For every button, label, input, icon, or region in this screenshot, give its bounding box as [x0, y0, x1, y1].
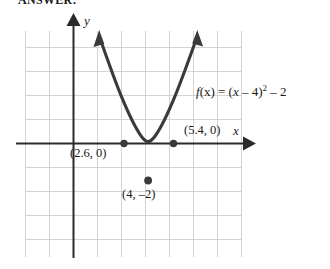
function-part-d: – 2: [267, 84, 287, 99]
answer-figure: ANSWER:: [0, 0, 330, 269]
point-vertex: [144, 177, 152, 185]
y-axis: [67, 13, 81, 258]
point-x-intercept-right: [170, 140, 177, 147]
x-intercept-left-label: (2.6, 0): [70, 147, 106, 160]
function-part-c: – 4): [239, 84, 263, 99]
x-intercept-right-label: (5.4, 0): [184, 124, 220, 137]
function-equation-label: f(x) = (x – 4)2 – 2: [196, 85, 287, 98]
vertex-label: (4, –2): [122, 188, 155, 201]
parabola-plot: [0, 0, 330, 269]
x-axis-label: x: [233, 124, 239, 137]
function-part-a: (x) = (: [200, 84, 233, 99]
marked-points: [120, 140, 177, 185]
x-axis: [16, 137, 256, 151]
point-x-intercept-left: [120, 140, 127, 147]
y-axis-label: y: [84, 14, 90, 27]
